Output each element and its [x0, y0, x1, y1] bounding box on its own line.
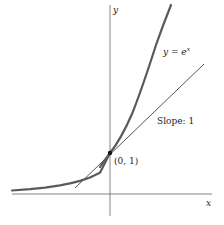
x-axis-label: x — [206, 198, 211, 208]
exp-curve — [12, 153, 110, 191]
curve-label: y = ex — [162, 45, 191, 57]
point-0-1 — [108, 151, 112, 155]
tangent-line — [75, 64, 204, 188]
exp-curve-upper — [100, 5, 171, 167]
y-axis-label: y — [112, 5, 119, 15]
point-label: (0, 1) — [114, 156, 138, 166]
exp-graph: y x y = ex Slope: 1 (0, 1) — [0, 0, 224, 225]
slope-label: Slope: 1 — [157, 116, 194, 126]
